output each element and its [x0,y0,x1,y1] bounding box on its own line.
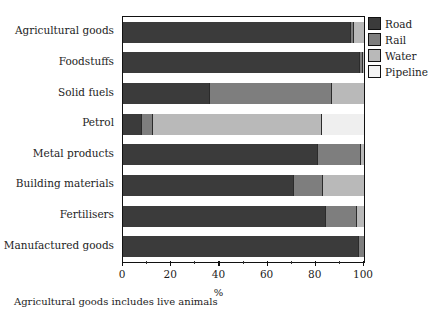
bar-segment-road[interactable] [123,144,317,165]
x-minor-tick [146,261,147,264]
x-tick-label: 40 [212,268,225,280]
legend-item-water[interactable]: Water [368,49,428,62]
x-axis: 020406080100 [122,261,363,262]
bar-segment-road[interactable] [123,236,358,257]
x-tick-label: 80 [308,268,321,280]
chart-footnote: Agricultural goods includes live animals [14,296,218,307]
x-minor-tick [291,261,292,264]
y-axis-label: Manufactured goods [4,240,114,251]
x-tick [315,261,316,266]
bar-row[interactable] [123,83,364,104]
x-tick [122,261,123,266]
x-tick-label: 100 [353,268,373,280]
y-axis-label: Solid fuels [58,87,114,98]
bar-segment-road[interactable] [123,22,350,43]
x-tick [218,261,219,266]
bar-row[interactable] [123,114,364,135]
bar-segment-rail[interactable] [209,83,332,104]
bar-segment-rail[interactable] [141,114,152,135]
bar-segment-pipeline[interactable] [321,114,364,135]
legend-label: Water [385,50,417,62]
bar-segment-water[interactable] [356,206,364,227]
y-axis-label: Foodstuffs [59,56,114,67]
x-tick-label: 20 [164,268,177,280]
bar-segment-road[interactable] [123,206,325,227]
y-axis-label: Agricultural goods [15,25,114,36]
bar-row[interactable] [123,52,364,73]
x-minor-tick [194,261,195,264]
bar-segment-water[interactable] [362,52,364,73]
stacked-bars [123,17,364,262]
x-tick-label: 60 [260,268,273,280]
bar-row[interactable] [123,175,364,196]
y-axis-label: Building materials [16,178,114,189]
bar-segment-water[interactable] [322,175,364,196]
bar-segment-rail[interactable] [293,175,322,196]
bar-segment-road[interactable] [123,83,209,104]
y-axis-label: Metal products [33,148,114,159]
bar-segment-rail[interactable] [317,144,360,165]
x-tick [170,261,171,266]
legend: RoadRailWaterPipeline [368,17,428,78]
legend-item-road[interactable]: Road [368,17,428,30]
pipeline-swatch-icon [368,65,381,78]
y-axis-label: Petrol [82,117,114,128]
legend-item-rail[interactable]: Rail [368,33,428,46]
bar-row[interactable] [123,206,364,227]
bar-segment-water[interactable] [360,144,364,165]
chart-container: Agricultural goodsFoodstuffsSolid fuelsP… [0,0,441,320]
bar-segment-road[interactable] [123,52,359,73]
bar-segment-road[interactable] [123,114,141,135]
road-swatch-icon [368,17,381,30]
bar-row[interactable] [123,236,364,257]
bar-segment-water[interactable] [353,22,364,43]
plot-area [122,16,365,263]
x-minor-tick [243,261,244,264]
legend-item-pipeline[interactable]: Pipeline [368,65,428,78]
bar-row[interactable] [123,22,364,43]
legend-label: Rail [385,34,406,46]
bar-segment-water[interactable] [152,114,321,135]
bar-segment-rail[interactable] [325,206,355,227]
bar-segment-water[interactable] [331,83,364,104]
rail-swatch-icon [368,33,381,46]
bar-segment-rail[interactable] [358,236,364,257]
x-minor-tick [339,261,340,264]
x-tick [267,261,268,266]
water-swatch-icon [368,49,381,62]
x-tick [363,261,364,266]
legend-label: Road [385,18,412,30]
bar-segment-road[interactable] [123,175,293,196]
y-axis-category-labels: Agricultural goodsFoodstuffsSolid fuelsP… [0,16,118,261]
y-axis-label: Fertilisers [60,209,114,220]
x-tick-label: 0 [119,268,126,280]
bar-row[interactable] [123,144,364,165]
legend-label: Pipeline [385,66,428,78]
